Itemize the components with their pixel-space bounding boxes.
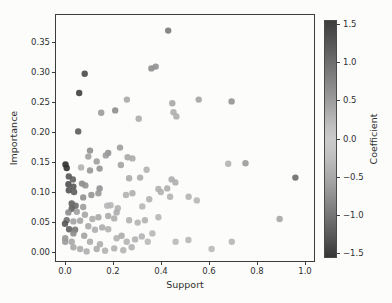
y-tick-mark [52,252,55,253]
scatter-point [96,165,102,171]
scatter-point [132,236,138,242]
scatter-point [70,244,76,250]
scatter-point [146,196,152,202]
scatter-point [87,239,93,245]
scatter-point [172,239,178,245]
scatter-point [126,175,132,181]
scatter-point [85,153,91,159]
colorbar-tick-mark [337,24,340,25]
scatter-point [78,164,84,170]
scatter-point [112,107,118,113]
scatter-point [98,110,104,116]
x-tick-label: 0.2 [106,267,120,276]
scatter-point [111,245,117,251]
scatter-point [64,165,70,171]
scatter-point [149,230,155,236]
x-tick-mark [257,262,258,265]
scatter-point [87,147,93,153]
scatter-point [95,190,101,196]
scatter-point [95,214,101,220]
scatter-point [113,209,119,215]
colorbar-tick-mark [337,253,340,254]
y-tick-label: 0.15 [20,158,50,167]
colorbar-tick-label: −1.5 [343,249,364,258]
scatter-point [89,216,95,222]
scatter-point [139,203,145,209]
colorbar-tick-mark [337,215,340,216]
y-tick-label: 0.20 [20,128,50,137]
y-tick-label: 0.25 [20,98,50,107]
scatter-point [80,194,86,200]
x-tick-mark [305,262,306,265]
y-tick-label: 0.30 [20,68,50,77]
y-tick-mark [52,192,55,193]
scatter-point [70,230,76,236]
x-tick-label: 0.4 [154,267,168,276]
scatter-point [99,224,105,230]
colorbar-tick-label: 0.5 [343,96,357,105]
scatter-point [153,63,159,69]
colorbar-tick-mark [337,100,340,101]
scatter-point [167,194,173,200]
y-axis-label: Importance [9,111,19,165]
scatter-point [65,209,71,215]
scatter-point [129,244,135,250]
scatter-point [74,209,80,215]
scatter-point [81,233,87,239]
scatter-point [105,213,111,219]
scatter-point [155,186,161,192]
y-tick-mark [52,162,55,163]
scatter-point [165,27,171,33]
scatter-point [70,218,76,224]
scatter-point [118,233,124,239]
scatter-point [117,144,123,150]
scatter-point [82,212,88,218]
colorbar-tick-mark [337,177,340,178]
scatter-point [80,204,86,210]
scatter-point [137,174,143,180]
scatter-point [94,158,100,164]
y-tick-label: 0.35 [20,38,50,47]
scatter-point [70,176,76,182]
scatter-point [126,217,132,223]
scatter-point [169,100,175,106]
colorbar-tick-label: 1.0 [343,58,357,67]
scatter-point [172,179,178,185]
scatter-figure: 0.00.20.40.60.81.0 0.000.050.100.150.200… [0,0,392,303]
scatter-point [185,237,191,243]
scatter-point [123,192,129,198]
scatter-point [143,167,149,173]
scatter-point [77,246,83,252]
scatter-point [71,189,77,195]
scatter-point [185,194,191,200]
y-tick-mark [52,102,55,103]
x-axis-label: Support [55,280,315,290]
scatter-point [62,239,68,245]
x-tick-label: 0.8 [250,267,264,276]
colorbar-tick-label: −0.5 [343,173,364,182]
scatter-point [118,162,124,168]
x-tick-label: 0.6 [202,267,216,276]
scatter-point [62,221,68,227]
x-tick-mark [113,262,114,265]
scatter-point [105,226,111,232]
scatter-point [124,96,130,102]
scatter-point [164,185,170,191]
x-tick-mark [161,262,162,265]
scatter-points-layer [56,15,314,261]
scatter-point [129,155,135,161]
scatter-point [107,202,113,208]
scatter-point [85,223,91,229]
y-tick-mark [52,42,55,43]
colorbar-tick-mark [337,62,340,63]
y-tick-mark [52,132,55,133]
scatter-point [242,160,248,166]
scatter-point [76,90,82,96]
colorbar-tick-label: 0.0 [343,135,357,144]
scatter-point [142,217,148,223]
scatter-point [77,218,83,224]
scatter-point [102,248,108,254]
scatter-point [276,216,282,222]
y-tick-label: 0.00 [20,248,50,257]
colorbar-tick-label: 1.5 [343,20,357,29]
